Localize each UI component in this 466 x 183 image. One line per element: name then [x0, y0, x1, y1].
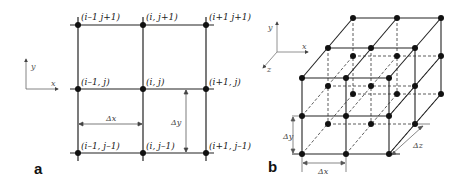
node-label: (i+1, j–1): [209, 141, 251, 151]
grid-nodes: [299, 15, 444, 157]
axis-y-label: y: [30, 62, 36, 71]
delta-x-label: Δx: [105, 114, 117, 123]
delta-y-label: Δy: [170, 118, 182, 127]
finite-difference-grid-figure: y x Δx Δy (i–1 j+1) (i, j+1) (i: [0, 0, 466, 183]
delta-z-label: Δz: [412, 141, 424, 150]
node-label: (i, j–1): [146, 141, 175, 151]
node-label: (i+1, j): [209, 77, 241, 87]
panel-b-3d-grid: y x z: [263, 15, 444, 176]
panel-a-2d-grid: y x Δx Δy (i–1 j+1) (i, j+1) (i: [26, 12, 252, 177]
node-label: (i+1 j+1): [209, 12, 252, 22]
delta-x-label: Δx: [317, 167, 329, 176]
axis-z-label: z: [266, 65, 272, 74]
panel-b-label: b: [268, 158, 277, 175]
axis-x-label: x: [302, 42, 307, 51]
visible-edges: [292, 18, 441, 154]
node-label: (i–1, j): [81, 77, 110, 87]
node-label: (i–1, j–1): [81, 141, 120, 151]
axis-x-label: x: [51, 79, 56, 88]
node-label: (i, j+1): [146, 12, 178, 22]
delta-y-label: Δy: [282, 132, 294, 141]
node-label: (i–1 j+1): [81, 12, 121, 22]
node-label: (i, j): [146, 77, 165, 87]
axis-y-label: y: [267, 23, 273, 32]
panel-a-label: a: [34, 160, 43, 177]
